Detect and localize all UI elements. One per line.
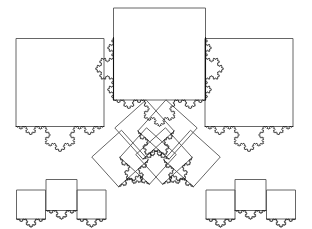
figure-background (0, 0, 312, 229)
figure-canvas (0, 0, 312, 229)
koch-square-figure (0, 0, 312, 229)
